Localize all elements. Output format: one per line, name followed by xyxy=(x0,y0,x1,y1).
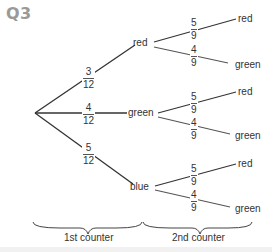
outcome-green-red: red xyxy=(238,87,252,97)
prob-blue-first: 512 xyxy=(82,143,95,166)
prob-red-red: 59 xyxy=(190,18,198,41)
outcome-red-red: red xyxy=(238,14,252,24)
prob-blue-red: 59 xyxy=(190,164,198,187)
prob-red-green: 49 xyxy=(190,45,198,68)
node-red: red xyxy=(133,38,147,48)
outcome-red-green: green xyxy=(235,60,261,70)
prob-blue-green: 49 xyxy=(190,190,198,213)
outcome-blue-green: green xyxy=(235,204,261,214)
node-green: green xyxy=(128,108,154,118)
outcome-green-green: green xyxy=(235,131,261,141)
node-blue: blue xyxy=(130,182,149,192)
outcome-blue-red: red xyxy=(238,159,252,169)
prob-green-first: 412 xyxy=(82,103,95,126)
prob-red-first: 312 xyxy=(82,67,95,90)
prob-green-green: 49 xyxy=(190,118,198,141)
label-1st-counter: 1st counter xyxy=(64,232,113,243)
label-2nd-counter: 2nd counter xyxy=(172,232,225,243)
prob-green-red: 59 xyxy=(190,92,198,115)
bottom-strip xyxy=(0,247,272,252)
